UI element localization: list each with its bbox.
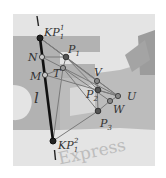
label-m: M [29, 70, 42, 83]
label-l: l [34, 89, 39, 107]
point-u [115, 93, 120, 98]
point-m [42, 72, 47, 77]
point-n [39, 54, 44, 59]
point-kp11 [37, 35, 43, 41]
label-u: U [127, 90, 137, 103]
point-p3 [95, 108, 101, 114]
label-w: W [113, 103, 126, 116]
point-v [94, 78, 99, 83]
label-kp11: KP11 [43, 24, 65, 41]
diagram-figure: Express [0, 0, 166, 178]
label-n: N [27, 51, 38, 64]
point-p2 [95, 87, 101, 93]
point-t [60, 65, 65, 70]
point-w [107, 98, 112, 103]
point-kp12 [50, 138, 56, 144]
label-v: V [94, 66, 103, 79]
label-kp12: KP12 [57, 137, 79, 154]
